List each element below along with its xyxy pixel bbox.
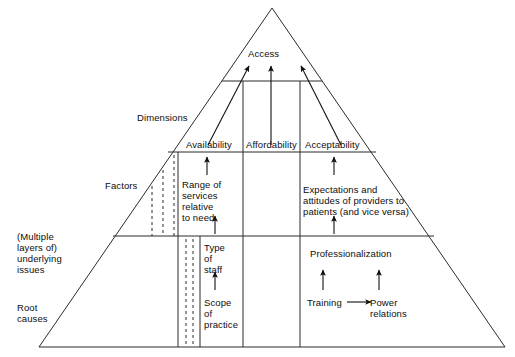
row-label-dimensions: Dimensions	[137, 112, 188, 123]
pyramid-diagram: Access Dimensions Factors (Multiple laye…	[0, 0, 515, 357]
apex-label-access: Access	[248, 48, 279, 59]
dimension-label-availability: Availability	[186, 139, 232, 150]
dimension-label-affordability: Affordability	[246, 139, 297, 150]
arrow-acceptability-to-access	[301, 66, 341, 145]
dimension-to-access-arrows	[208, 66, 341, 145]
root-cause-label-training: Training	[307, 297, 342, 308]
factor-to-dimension-arrows	[207, 157, 334, 175]
dimension-label-acceptability: Acceptability	[305, 139, 360, 150]
root-cause-label-scope-of-practice: Scope of practice	[204, 297, 250, 330]
underlying-dashed-lines	[186, 239, 193, 347]
row-label-underlying-issues: (Multiple layers of) underlying issues	[17, 231, 97, 275]
factor-label-expectations-attitudes: Expectations and attitudes of providers …	[303, 184, 435, 217]
root-cause-label-power-relations: Power relations	[370, 297, 422, 319]
underlying-label-type-of-staff: Type of staff	[204, 242, 244, 275]
factor-label-range-of-services: Range of services relative to need	[182, 179, 238, 223]
row-label-root-causes: Root causes	[17, 302, 87, 324]
row-label-factors: Factors	[105, 180, 137, 191]
underlying-label-professionalization: Professionalization	[310, 248, 392, 259]
